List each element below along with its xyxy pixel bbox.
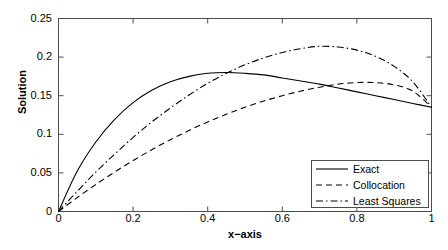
legend-line-sample-2 xyxy=(314,194,350,208)
legend-item-least-squares[interactable]: Least Squares xyxy=(312,193,428,209)
legend-label-1: Collocation xyxy=(353,179,405,191)
legend-item-collocation[interactable]: Collocation xyxy=(312,177,428,193)
legend-label-0: Exact xyxy=(353,163,379,175)
legend-item-exact[interactable]: Exact xyxy=(312,161,428,177)
legend-label-2: Least Squares xyxy=(353,195,421,207)
legend: ExactCollocationLeast Squares xyxy=(311,160,429,208)
figure: Solution x−axis 00.050.10.150.20.25 00.2… xyxy=(0,0,448,250)
legend-line-sample-1 xyxy=(314,178,350,192)
legend-line-sample-0 xyxy=(314,162,350,176)
plot-area xyxy=(0,0,448,250)
